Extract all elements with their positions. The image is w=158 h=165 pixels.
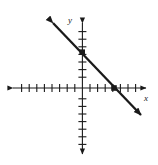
plotted-line <box>53 23 141 115</box>
x-axis-label: x <box>143 93 148 103</box>
y-axis-label: y <box>67 15 72 25</box>
y-intercept-point <box>79 49 85 55</box>
x-axis <box>13 84 146 92</box>
coordinate-plane-figure: y x <box>0 0 158 165</box>
x-intercept-point <box>111 85 117 91</box>
graph-canvas: y x <box>0 0 158 165</box>
